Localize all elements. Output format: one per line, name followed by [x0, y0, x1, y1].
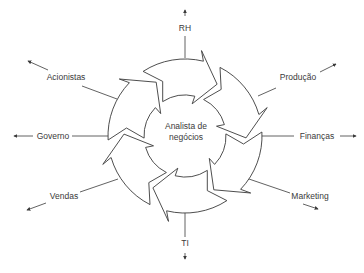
stakeholder-label-producao: Produção	[280, 72, 317, 82]
stakeholder-diagram: RHProduçãoFinançasMarketingTIVendasGover…	[0, 0, 364, 273]
connector-producao	[258, 88, 276, 96]
stakeholder-label-financas: Finanças	[300, 131, 335, 141]
outward-arrow-icon	[320, 64, 336, 72]
center-label-line1: Analista de	[150, 121, 222, 132]
connector-marketing	[246, 178, 290, 193]
stakeholder-label-acionistas: Acionistas	[47, 72, 86, 82]
stakeholder-label-vendas: Vendas	[50, 191, 78, 201]
outward-arrow-icon	[303, 204, 318, 209]
outward-arrow-icon	[28, 61, 48, 70]
stakeholder-label-ti: TI	[181, 238, 189, 248]
center-node: Analista de negócios	[150, 121, 222, 143]
stakeholder-label-governo: Governo	[37, 131, 70, 141]
outward-arrow-icon	[27, 203, 46, 210]
connector-vendas	[80, 179, 118, 192]
stakeholder-label-marketing: Marketing	[291, 191, 329, 201]
stakeholder-label-rh: RH	[179, 23, 191, 33]
connector-acionistas	[82, 86, 117, 99]
center-label-line2: negócios	[150, 132, 222, 143]
